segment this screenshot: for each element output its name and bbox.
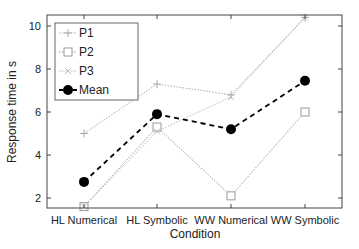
legend-label: Mean: [79, 83, 109, 97]
x-tick-label: HL Numerical: [51, 214, 117, 226]
y-tick-label: 6: [35, 106, 41, 118]
y-tick-label: 4: [35, 149, 41, 161]
legend-label: P2: [79, 45, 94, 59]
x-tick-label: WW Numerical: [194, 214, 267, 226]
square-marker: [64, 48, 72, 56]
y-tick-label: 2: [35, 192, 41, 204]
square-marker: [227, 192, 235, 200]
square-marker: [301, 108, 309, 116]
x-tick-label: WW Symbolic: [271, 214, 340, 226]
circle-marker: [226, 124, 236, 134]
circle-marker: [79, 177, 89, 187]
x-tick-label: HL Symbolic: [126, 214, 188, 226]
circle-marker: [300, 76, 310, 86]
circle-marker: [63, 85, 73, 95]
y-tick-label: 10: [29, 20, 41, 32]
series-p2: [80, 108, 309, 211]
legend-label: P3: [79, 64, 94, 78]
y-axis-label: Response time in s: [5, 61, 19, 163]
legend-label: P1: [79, 26, 94, 40]
legend: P1P2P3Mean: [55, 23, 138, 100]
circle-marker: [152, 109, 162, 119]
y-tick-label: 8: [35, 63, 41, 75]
line-chart: 246810HL NumericalHL SymbolicWW Numerica…: [0, 0, 359, 249]
x-axis-label: Condition: [170, 227, 221, 241]
series-line: [84, 112, 305, 207]
